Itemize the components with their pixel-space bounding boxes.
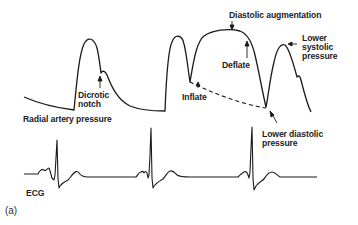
ecg-label: ECG <box>26 189 44 198</box>
lower-systolic-pressure-label: Lower systolic pressure <box>302 34 338 61</box>
arterial-pressure-curve <box>24 30 311 112</box>
lower-diastolic-label-line2: pressure <box>262 139 323 148</box>
radial-artery-pressure-label: Radial artery pressure <box>23 115 112 124</box>
inflate-label: Inflate <box>182 93 207 102</box>
dicrotic-notch-label: Dicrotic notch <box>78 91 109 109</box>
lower-diastolic-pressure-label: Lower diastolic pressure <box>262 130 323 148</box>
panel-label: (a) <box>5 206 17 215</box>
deflate-label: Deflate <box>222 61 250 70</box>
annotation-arrows <box>98 21 297 123</box>
lower-systolic-label-line3: pressure <box>302 52 338 61</box>
diastolic-augmentation-label: Diastolic augmentation <box>229 11 321 20</box>
dicrotic-notch-label-line2: notch <box>78 100 109 109</box>
